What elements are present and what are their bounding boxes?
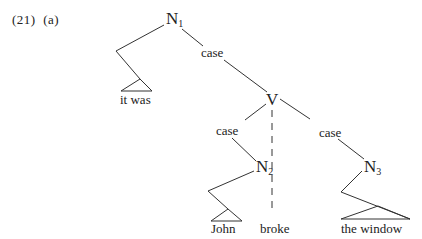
node-n3-label: N — [364, 157, 376, 176]
node-n1-subscript: 1 — [178, 18, 183, 29]
node-v: V — [266, 91, 278, 108]
branch-case-n2 — [232, 138, 256, 161]
node-n3-subscript: 3 — [376, 166, 381, 177]
node-n2-subscript: 2 — [268, 166, 273, 177]
branch-n1-left — [116, 25, 164, 79]
triangle-it-was — [121, 79, 152, 91]
branch-case-v — [224, 60, 267, 92]
edge-label-n1-v: case — [201, 46, 223, 59]
example-number: (21) (a) — [12, 12, 59, 28]
edge-label-v-n2: case — [216, 124, 238, 137]
node-v-label: V — [266, 90, 278, 109]
leaf-john: John — [211, 222, 236, 235]
triangle-john — [211, 209, 242, 221]
leaf-it-was: it was — [120, 93, 151, 106]
node-n1-label: N — [166, 9, 178, 28]
leaf-broke: broke — [260, 222, 290, 235]
branch-n2-left — [208, 171, 254, 209]
tree-lines — [0, 0, 422, 239]
branch-n3-right — [341, 171, 410, 219]
node-n3: N3 — [364, 158, 381, 177]
branch-v-case-right — [280, 99, 310, 119]
node-n1: N1 — [166, 10, 183, 29]
node-n2-label: N — [256, 157, 268, 176]
example-sub: (a) — [43, 12, 59, 27]
edge-label-v-n3: case — [319, 126, 341, 139]
leaf-the-window: the window — [341, 222, 402, 235]
example-index: (21) — [12, 12, 36, 27]
branch-case-n3 — [338, 139, 364, 159]
branch-n1-case — [182, 29, 203, 46]
branch-v-case-left — [245, 104, 266, 120]
node-n2: N2 — [256, 158, 273, 177]
triangle-the-window — [341, 206, 410, 219]
